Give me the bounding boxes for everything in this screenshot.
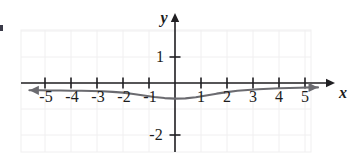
x-tick-label-neg3: -3 — [91, 89, 104, 105]
x-axis-label: x — [339, 85, 347, 101]
x-tick-label-neg2: -2 — [117, 89, 130, 105]
x-tick-label-neg1: -1 — [143, 89, 156, 105]
x-tick-label-3: 3 — [249, 89, 257, 105]
graph-figure: y x -5 -4 -3 -2 -1 1 2 3 4 5 1 -2 — [0, 0, 349, 159]
x-tick-label-4: 4 — [275, 89, 283, 105]
x-tick-label-2: 2 — [223, 89, 231, 105]
x-tick-label-1: 1 — [197, 89, 205, 105]
axes — [21, 13, 335, 152]
x-tick-label-5: 5 — [301, 89, 309, 105]
plot-canvas — [0, 0, 349, 159]
y-tick-label-neg2: -2 — [149, 127, 162, 143]
x-tick-label-neg5: -5 — [39, 89, 52, 105]
x-tick-label-neg4: -4 — [65, 89, 78, 105]
y-axis-label: y — [160, 10, 167, 26]
y-tick-label-1: 1 — [156, 49, 164, 65]
